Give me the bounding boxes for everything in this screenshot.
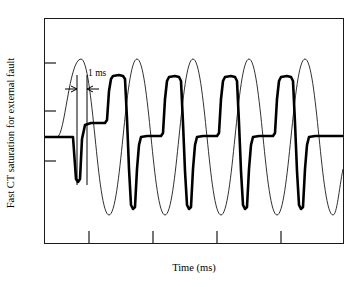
y-axis-ticks — [45, 63, 56, 161]
chart-figure: Fast CT saturation for external fault — [0, 0, 364, 287]
y-axis-label: Fast CT saturation for external fault — [2, 18, 20, 248]
saturated-waveform-trace — [45, 75, 343, 209]
interval-label: 1 ms — [88, 68, 106, 78]
x-axis-label: Time (ms) — [44, 262, 344, 273]
plot-area — [44, 18, 344, 244]
x-axis-ticks — [89, 231, 281, 243]
